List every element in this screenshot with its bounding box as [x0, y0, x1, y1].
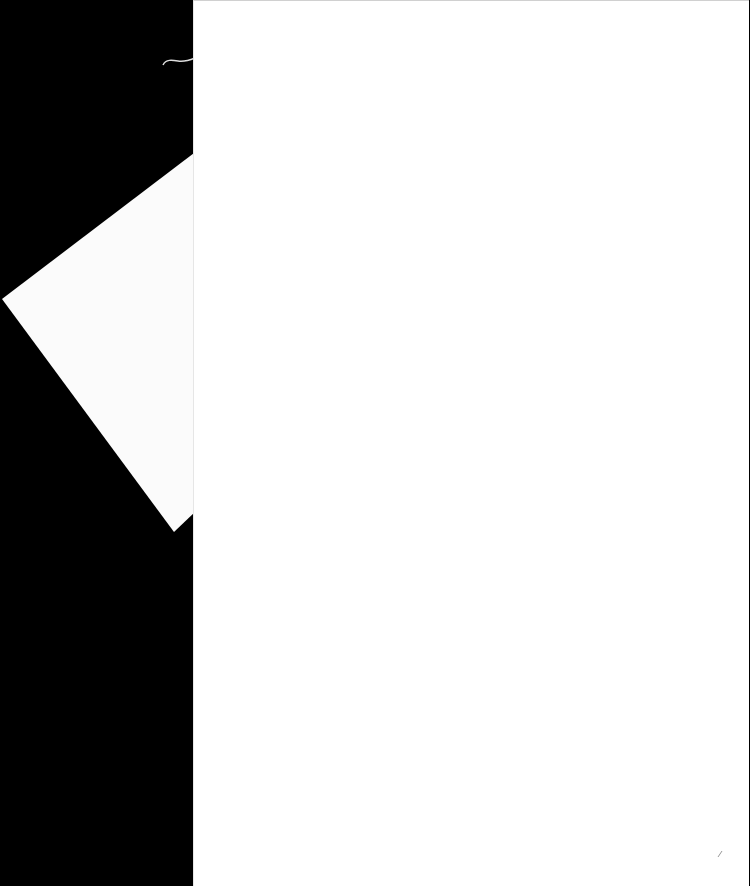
pencil-mark [717, 850, 723, 858]
back-page [2, 150, 202, 532]
paper-fiber [162, 55, 196, 69]
front-page [193, 0, 749, 886]
